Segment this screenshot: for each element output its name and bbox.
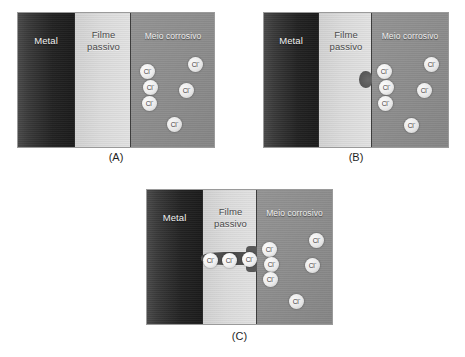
chloride-ion: Cl- [264, 257, 279, 272]
panel-b: Metal Filme passivo Meio corrosivo Cl- C… [264, 13, 448, 165]
chloride-ion: Cl- [188, 57, 203, 72]
chloride-ion: Cl- [404, 118, 419, 133]
panel-a-figure: Metal Filme passivo Meio corrosivo Cl- C… [18, 13, 214, 147]
chloride-ion-label: Cl- [146, 99, 154, 108]
panel-a-film-label: Filme passivo [75, 29, 132, 52]
chloride-ion-label: Cl- [421, 86, 429, 95]
panel-b-film-region: Filme passivo [318, 13, 372, 147]
chloride-ion: Cl- [263, 272, 278, 287]
panel-b-medium-label: Meio corrosivo [368, 31, 448, 43]
chloride-ion-in-pit: Cl- [222, 253, 237, 268]
chloride-ion: Cl- [305, 258, 320, 273]
medium-texture [257, 190, 332, 324]
panel-c-film-label: Filme passivo [203, 206, 258, 229]
chloride-ion-in-pit: Cl- [242, 252, 257, 267]
chloride-ion: Cl- [379, 80, 394, 95]
chloride-ion: Cl- [179, 83, 194, 98]
panel-c-metal-region: Metal [147, 190, 202, 324]
chloride-ion: Cl- [167, 117, 182, 132]
chloride-ion: Cl- [142, 96, 157, 111]
panel-a-film-region: Filme passivo [74, 13, 131, 147]
chloride-ion-label: Cl- [226, 256, 234, 265]
chloride-ion: Cl- [424, 57, 439, 72]
panel-a-caption: (A) [18, 151, 214, 163]
chloride-ion-label: Cl- [144, 67, 152, 76]
chloride-ion-label: Cl- [383, 83, 391, 92]
chloride-ion: Cl- [309, 233, 324, 248]
panel-c-figure: Metal Filme passivo Meio corrosivo Cl- C… [147, 190, 332, 324]
panel-a: Metal Filme passivo Meio corrosivo Cl- C… [18, 13, 214, 165]
chloride-ion: Cl- [140, 64, 155, 79]
chloride-ion-label: Cl- [428, 60, 436, 69]
metal-texture [147, 190, 202, 324]
panel-b-metal-region: Metal [264, 13, 318, 147]
chloride-ion-label: Cl- [408, 121, 416, 130]
chloride-ion-label: Cl- [293, 297, 301, 306]
panel-b-metal-label: Metal [264, 35, 318, 47]
medium-texture [131, 13, 214, 147]
panel-c: Metal Filme passivo Meio corrosivo Cl- C… [147, 190, 332, 350]
chloride-ion-label: Cl- [267, 275, 275, 284]
chloride-ion: Cl- [289, 294, 304, 309]
panel-c-caption: (C) [147, 330, 332, 342]
incipient-pit-notch [359, 71, 372, 88]
panel-a-metal-region: Metal [18, 13, 74, 147]
chloride-ion-label: Cl- [266, 245, 274, 254]
chloride-ion-label: Cl- [382, 99, 390, 108]
chloride-ion: Cl- [262, 242, 277, 257]
panel-c-medium-label: Meio corrosivo [253, 208, 332, 220]
chloride-ion: Cl- [377, 64, 392, 79]
chloride-ion-label: Cl- [147, 83, 155, 92]
panel-b-medium-region: Meio corrosivo Cl- Cl- Cl- Cl- Cl- Cl- C… [372, 13, 448, 147]
metal-texture [264, 13, 318, 147]
chloride-ion-label: Cl- [207, 256, 215, 265]
metal-texture [18, 13, 74, 147]
chloride-ion-label: Cl- [192, 60, 200, 69]
panel-a-medium-region: Meio corrosivo Cl- Cl- Cl- Cl- Cl- Cl- C… [131, 13, 214, 147]
panel-a-metal-label: Metal [18, 35, 74, 47]
panel-b-film-label: Filme passivo [319, 29, 373, 52]
panel-a-medium-label: Meio corrosivo [129, 31, 214, 43]
chloride-ion-label: Cl- [309, 261, 317, 270]
chloride-ion-label: Cl- [268, 260, 276, 269]
medium-texture [372, 13, 448, 147]
chloride-ion: Cl- [417, 83, 432, 98]
chloride-ion-label: Cl- [313, 236, 321, 245]
panel-c-metal-label: Metal [147, 212, 202, 224]
chloride-ion-in-pit: Cl- [203, 253, 218, 268]
panel-b-caption: (B) [264, 151, 448, 163]
chloride-ion: Cl- [143, 80, 158, 95]
panel-b-figure: Metal Filme passivo Meio corrosivo Cl- C… [264, 13, 448, 147]
panel-c-medium-region: Meio corrosivo Cl- Cl- Cl- Cl- Cl- Cl- C… [257, 190, 332, 324]
chloride-ion-label: Cl- [171, 120, 179, 129]
chloride-ion: Cl- [378, 96, 393, 111]
chloride-ion-label: Cl- [183, 86, 191, 95]
chloride-ion-label: Cl- [381, 67, 389, 76]
chloride-ion-label: Cl- [246, 255, 254, 264]
